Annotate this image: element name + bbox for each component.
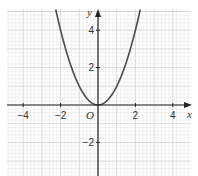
grid-minor-lines bbox=[7, 9, 191, 176]
x-tick-label: 2 bbox=[133, 110, 139, 121]
x-tick-label: −2 bbox=[55, 110, 67, 121]
x-tick-label: 4 bbox=[170, 110, 176, 121]
y-tick-label: 2 bbox=[88, 62, 94, 73]
parabola-plot: −4−22442−2xyO bbox=[0, 0, 198, 176]
x-axis-label: x bbox=[186, 108, 192, 120]
y-tick-label: −2 bbox=[83, 137, 95, 148]
y-axis-label: y bbox=[86, 6, 92, 18]
axis-labels: −4−22442−2xyO bbox=[17, 6, 192, 148]
y-axis-arrow-icon bbox=[95, 9, 101, 17]
x-tick-label: −4 bbox=[17, 110, 29, 121]
origin-label: O bbox=[86, 109, 94, 121]
y-tick-label: 4 bbox=[88, 25, 94, 36]
